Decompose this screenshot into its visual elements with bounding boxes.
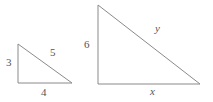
geometry-figure: 3 5 4 6 y x [0,0,213,102]
small-triangle-hypotenuse-label: 5 [50,47,56,58]
small-triangle-base-leg-label: 4 [41,87,47,98]
large-right-triangle-outline [98,5,200,84]
large-triangle-hypotenuse-label: y [155,23,160,34]
triangles-svg [0,0,213,102]
small-right-triangle-outline [18,44,72,83]
large-triangle-vertical-leg-label: 6 [84,39,90,50]
small-triangle-vertical-leg-label: 3 [6,57,12,68]
large-triangle-base-leg-label: x [150,86,155,97]
